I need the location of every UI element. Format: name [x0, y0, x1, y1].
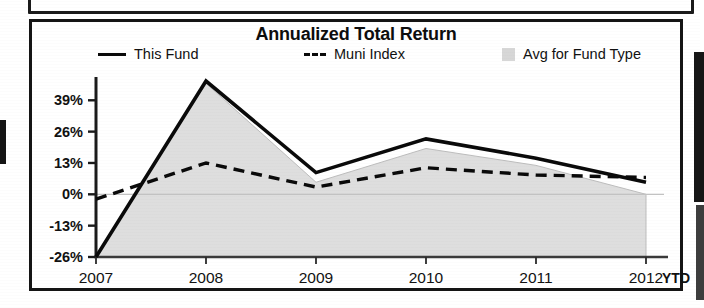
top-box-fragment	[28, 0, 694, 14]
x-axis-tick-labels: 200720082009201020112012YTD	[79, 269, 690, 286]
svg-text:-13%: -13%	[49, 218, 83, 234]
series-area-avg-for-fund-type	[96, 83, 646, 257]
svg-text:2007: 2007	[79, 269, 113, 286]
svg-text:39%: 39%	[54, 92, 83, 108]
svg-text:26%: 26%	[54, 124, 83, 140]
svg-text:13%: 13%	[54, 155, 83, 171]
right-edge-artifact-upper	[694, 52, 704, 202]
svg-text:-26%: -26%	[49, 249, 83, 265]
chart-panel: Annualized Total Return This Fund Muni I…	[29, 19, 683, 291]
y-axis-tick-labels: 39%26%13%0%-13%-26%	[49, 92, 83, 265]
svg-text:2008: 2008	[189, 269, 223, 286]
svg-text:2011: 2011	[519, 269, 552, 286]
plot-area: 39%26%13%0%-13%-26% 20072008200920102011…	[32, 22, 680, 288]
chart-svg: 39%26%13%0%-13%-26% 20072008200920102011…	[32, 22, 680, 288]
svg-text:YTD: YTD	[662, 270, 690, 286]
left-edge-artifact	[0, 120, 6, 164]
right-edge-artifact-lower	[696, 205, 704, 300]
svg-text:2010: 2010	[409, 269, 444, 286]
svg-text:0%: 0%	[62, 186, 83, 202]
svg-text:2012: 2012	[629, 269, 663, 286]
svg-text:2009: 2009	[299, 269, 333, 286]
